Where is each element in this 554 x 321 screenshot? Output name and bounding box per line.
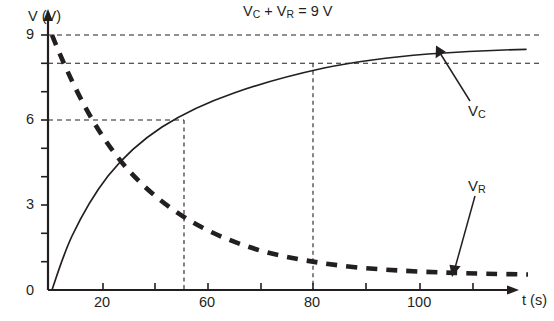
title-post: = 9 V [294, 3, 332, 19]
series-vc-curve [52, 49, 526, 290]
title-pre: V [243, 3, 253, 19]
y-tick-label-3: 3 [26, 197, 34, 212]
series-label-vr-sub: R [478, 183, 486, 195]
chart-figure: V (V) t (s) VC + VR = 9 V 9 6 3 0 20 60 … [0, 0, 554, 321]
series-label-vr: VR [468, 178, 486, 195]
title-mid: + V [260, 3, 286, 19]
vr-leader [450, 196, 476, 277]
series-label-vc: VC [468, 103, 486, 120]
series-vr-curve [52, 35, 528, 275]
y-tick-label-6: 6 [26, 112, 34, 127]
series-label-vr-base: V [468, 177, 478, 194]
vc-leader [436, 46, 470, 102]
y-tick-label-9: 9 [26, 27, 34, 42]
x-tick-label-100: 100 [407, 295, 431, 310]
x-axis-title: t (s) [522, 293, 547, 308]
x-tick-label-60: 60 [199, 295, 215, 310]
plot-canvas [0, 0, 554, 321]
chart-title: VC + VR = 9 V [243, 4, 332, 21]
series-label-vc-base: V [468, 102, 478, 119]
vc-leader-arrowhead [436, 46, 446, 59]
vr-leader-line [455, 196, 475, 268]
x-axis [48, 285, 519, 294]
y-axis [43, 9, 53, 290]
vc-leader-line [440, 53, 470, 101]
x-axis-arrowhead [507, 285, 519, 294]
x-tick-label-20: 20 [94, 295, 110, 310]
x-tick-label-80: 80 [304, 295, 320, 310]
y-tick-label-0: 0 [26, 283, 34, 298]
series-label-vc-sub: C [478, 108, 486, 120]
y-axis-title: V (V) [28, 9, 61, 24]
